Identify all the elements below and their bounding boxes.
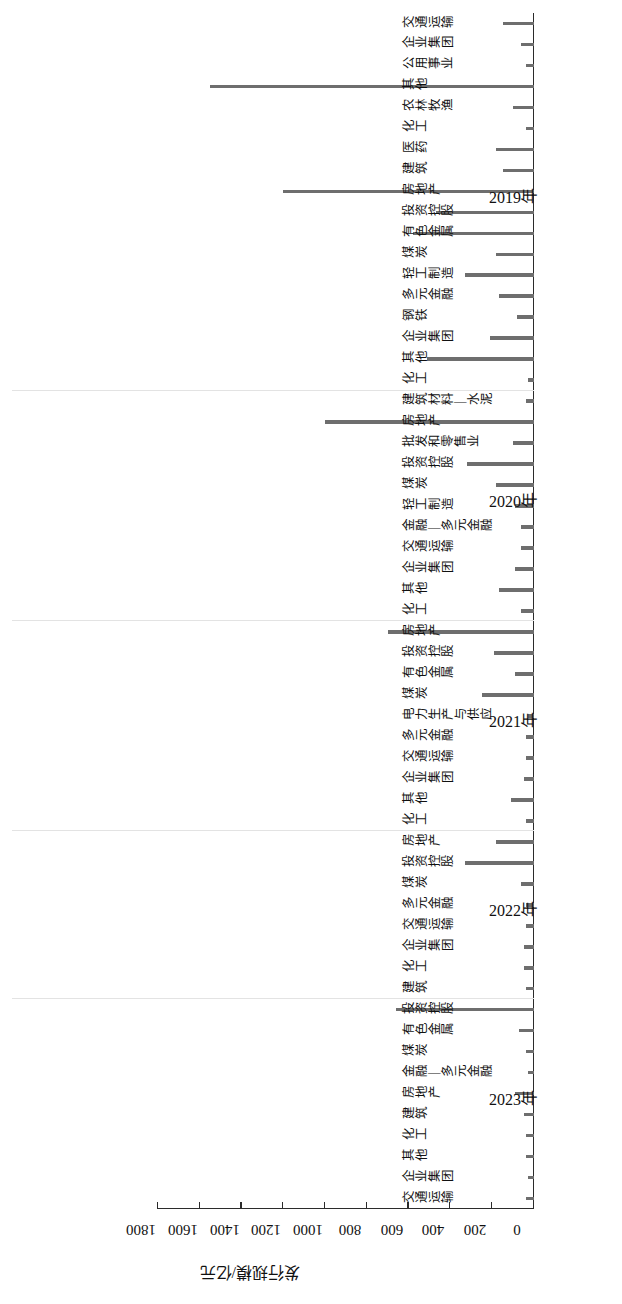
category-label: 其他 [402, 353, 428, 366]
year-group-label: 2022年 [489, 899, 537, 923]
category-label: 交通运输 [402, 919, 454, 932]
category-label: 医药 [402, 143, 428, 156]
category-label: 金融—多元金融 [402, 1066, 493, 1079]
category-label: 农林牧渔 [402, 101, 454, 114]
bar [528, 378, 534, 382]
bar [521, 43, 534, 47]
category-label: 多元金融 [402, 898, 454, 911]
category-label: 化工 [402, 1129, 428, 1142]
value-tick-label: 1200 [251, 1221, 281, 1238]
category-label: 其他 [402, 1150, 428, 1163]
bar [490, 336, 534, 340]
category-label: 建筑 [402, 164, 428, 177]
bar [524, 1113, 534, 1117]
bar [494, 651, 534, 655]
category-label: 多元金融 [402, 290, 454, 303]
category-label: 企业集团 [402, 332, 454, 345]
value-tick-label: 400 [422, 1221, 445, 1238]
category-label: 煤炭 [402, 479, 428, 492]
value-tick-label: 1400 [210, 1221, 240, 1238]
bar [496, 483, 534, 487]
value-tick-label: 1600 [168, 1221, 198, 1238]
value-tick [240, 1202, 241, 1209]
category-label: 其他 [402, 584, 428, 597]
bar [513, 106, 534, 110]
bar [526, 735, 534, 739]
category-label: 投资控股 [402, 1003, 454, 1016]
bar [496, 148, 534, 152]
year-group-label: 2023年 [489, 1088, 537, 1112]
category-label: 批发和零售业 [402, 437, 480, 450]
bar [526, 399, 534, 403]
value-tick [533, 1202, 534, 1209]
bar [526, 1134, 534, 1138]
category-label: 房地产 [402, 625, 441, 638]
bar [465, 861, 534, 865]
bar [526, 64, 534, 68]
category-label: 煤炭 [402, 248, 428, 261]
category-label: 其他 [402, 80, 428, 93]
bar [496, 840, 534, 844]
bar [513, 441, 534, 445]
bar [528, 1176, 534, 1180]
group-separator [12, 998, 534, 999]
category-label: 建筑 [402, 982, 428, 995]
category-label: 投资控股 [402, 458, 454, 471]
bar [210, 85, 534, 89]
category-label: 建筑材料—水泥 [402, 395, 493, 408]
bar [503, 169, 534, 173]
category-label: 煤炭 [402, 688, 428, 701]
value-tick-label: 1800 [126, 1221, 156, 1238]
category-label: 交通运输 [402, 542, 454, 555]
category-label: 轻工制造 [402, 269, 454, 282]
category-label: 有色金属 [402, 667, 454, 680]
bar [482, 693, 534, 697]
bar [515, 672, 534, 676]
bar [499, 588, 535, 592]
category-label: 化工 [402, 605, 428, 618]
bar [524, 777, 534, 781]
category-label: 化工 [402, 374, 428, 387]
bar [526, 819, 534, 823]
bar [521, 609, 534, 613]
category-label: 化工 [402, 961, 428, 974]
bar [511, 798, 534, 802]
category-label: 有色金属 [402, 227, 454, 240]
category-label: 企业集团 [402, 772, 454, 785]
category-label: 投资控股 [402, 646, 454, 659]
value-tick [324, 1202, 325, 1209]
plot-area: 020040060080010001200140016001800 交通运输企业… [12, 13, 534, 1209]
bar [524, 945, 534, 949]
value-tick-label: 200 [464, 1221, 487, 1238]
bar [467, 462, 534, 466]
value-tick-label: 600 [380, 1221, 403, 1238]
value-tick [282, 1202, 283, 1209]
value-axis-title: 发行规模/亿元 [200, 1262, 300, 1286]
year-group-label: 2019年 [489, 186, 537, 210]
category-label: 企业集团 [402, 940, 454, 953]
category-label: 化工 [402, 814, 428, 827]
year-group-label: 2021年 [489, 710, 537, 734]
bar [521, 546, 534, 550]
value-tick [157, 1202, 158, 1209]
category-label: 煤炭 [402, 1045, 428, 1058]
category-label: 轻工制造 [402, 500, 454, 513]
category-label: 企业集团 [402, 38, 454, 51]
category-label: 建筑 [402, 1108, 428, 1121]
bar [524, 966, 534, 970]
chart-page: 发行规模/亿元 02004006008001000120014001600180… [0, 0, 622, 1304]
bar [526, 756, 534, 760]
value-tick [491, 1202, 492, 1209]
category-label: 交通运输 [402, 1192, 454, 1205]
category-label: 公用事业 [402, 59, 454, 72]
category-label: 化工 [402, 122, 428, 135]
category-label: 交通运输 [402, 17, 454, 30]
category-label: 多元金融 [402, 730, 454, 743]
category-label: 房地产 [402, 185, 441, 198]
bar [503, 22, 534, 26]
bar [526, 127, 534, 131]
value-tick-label: 0 [513, 1221, 521, 1238]
value-tick [366, 1202, 367, 1209]
bar [521, 882, 534, 886]
bar [528, 1071, 534, 1075]
